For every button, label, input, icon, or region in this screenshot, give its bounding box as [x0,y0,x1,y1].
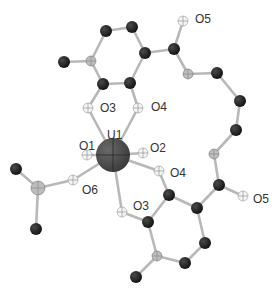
atom-carbon-a17 [213,179,225,191]
atom-label-o4-top: O4 [151,100,167,114]
atom-hatched-a12 [183,69,193,79]
atom-hatched-a24 [152,251,162,261]
atom-oxygen-a30 [68,175,78,185]
atom-hatched-a4 [86,56,96,66]
atom-carbon-a26 [130,271,142,283]
atoms-layer [10,16,248,283]
atom-oxygen-a29 [138,148,148,158]
atom-oxygen-a9 [133,103,143,113]
atom-label-o5-bottom: O5 [253,192,269,206]
atom-carbon-a21 [191,202,203,214]
atom-label-o1: O1 [79,139,95,153]
atom-carbon-a14 [234,95,246,107]
atom-carbon-a22 [199,237,211,249]
atom-label-u1: U1 [107,128,123,142]
atom-carbon-a33 [30,223,42,235]
labels-layer: O5O3O4U1O1O2O4O6O3O5 [79,12,269,213]
atom-carbon-a10 [168,43,180,55]
atom-label-o5-top: O5 [195,12,211,26]
atom-carbon-a13 [211,67,223,79]
atom-label-o4-bottom: O4 [170,166,186,180]
atom-carbon-a2 [126,21,138,33]
atom-oxygen-a18 [238,191,248,201]
atom-label-o6: O6 [82,183,98,197]
atom-carbon-a7 [124,77,136,89]
atom-oxygen-a27 [117,207,127,217]
atom-oxygen-a8 [83,103,93,113]
atom-label-o3-bottom: O3 [133,199,149,213]
atom-carbon-a15 [230,124,242,136]
molecular-structure-diagram: O5O3O4U1O1O2O4O6O3O5 [0,0,279,291]
atom-oxygen-a19 [154,166,164,176]
atom-uranium-U1 [96,138,130,172]
atom-label-o2: O2 [150,141,166,155]
atom-carbon-a1 [100,25,112,37]
atom-carbon-a5 [58,56,70,68]
atom-carbon-a25 [142,216,154,228]
atom-carbon-a32 [10,163,22,175]
atom-carbon-a23 [179,257,191,269]
atom-carbon-a3 [139,47,151,59]
atom-carbon-a20 [163,189,175,201]
atom-oxygen-a11 [178,16,188,26]
atom-carbon-a6 [97,78,109,90]
atom-hatched-a16 [209,149,219,159]
atom-label-o3-top: O3 [100,101,116,115]
atom-hatched-a31 [31,181,45,195]
